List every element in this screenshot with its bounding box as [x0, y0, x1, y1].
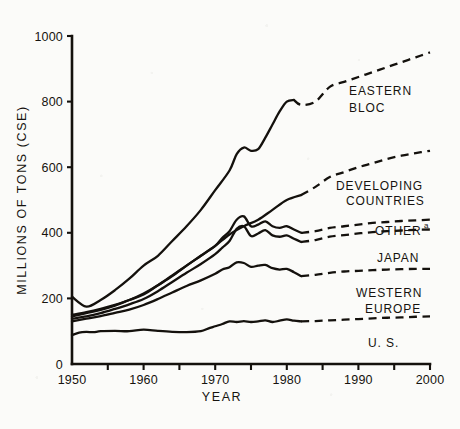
x-axis-title: YEAR: [202, 390, 242, 404]
y-tick-label-0: 0: [56, 358, 63, 372]
y-tick-label-400: 400: [42, 226, 63, 240]
series-label-eastern-bloc-line1: EASTERN: [349, 84, 412, 98]
series-label-western-europe-line2: EUROPE: [365, 302, 421, 316]
y-axis-title: MILLIONS OF TONS (CSE): [15, 105, 29, 295]
chart-plot-area: 02004006008001000 1950196019701980199020…: [0, 0, 460, 429]
y-tick-label-1000: 1000: [34, 30, 63, 44]
series-label-other: OTHER: [375, 224, 422, 238]
y-tick-label-200: 200: [42, 292, 63, 306]
y-tick-label-600: 600: [42, 161, 63, 175]
curve-western-europe-projected: [301, 269, 430, 276]
x-tick-label-1980: 1980: [272, 373, 301, 387]
x-tick-label-1990: 1990: [344, 373, 373, 387]
series-label-developing-line2: COUNTRIES: [346, 194, 425, 208]
x-tick-label-1960: 1960: [129, 373, 158, 387]
series-label-us: U. S.: [368, 336, 399, 350]
x-tick-label-2000: 2000: [416, 373, 445, 387]
series-label-developing-line1: DEVELOPING: [336, 179, 423, 193]
series-label-western-europe-line1: WESTERN: [356, 286, 422, 300]
x-tick-label-1950: 1950: [58, 373, 87, 387]
curve-japan-historical: [72, 226, 301, 319]
series-label-other-superscript: a: [424, 221, 429, 230]
chart-figure: 02004006008001000 1950196019701980199020…: [0, 0, 460, 429]
y-tick-label-800: 800: [42, 95, 63, 109]
series-label-eastern-bloc-line2: BLOC: [349, 101, 385, 115]
x-axis-tick-labels: 195019601970198019902000: [58, 373, 445, 387]
y-axis-tick-labels: 02004006008001000: [34, 30, 63, 372]
curve-u-s-projected: [301, 316, 430, 321]
x-tick-label-1970: 1970: [201, 373, 230, 387]
curve-u-s-historical: [72, 319, 301, 335]
series-label-japan: JAPAN: [377, 251, 419, 265]
